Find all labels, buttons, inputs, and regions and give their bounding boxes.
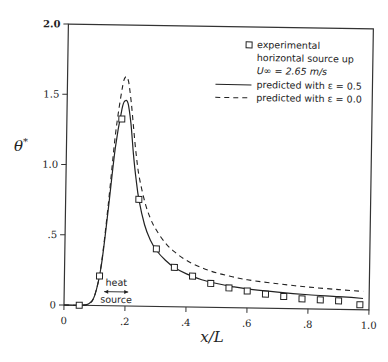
data-point-square-marker [190,273,196,279]
data-point-square-marker [226,285,232,291]
x-tick-label: .8 [303,319,313,330]
data-point-square-marker [262,291,268,297]
data-point-square-marker [136,196,142,202]
source-label: source [100,294,132,305]
data-point-square-marker [244,288,250,294]
heat-source-annotation: heat source [100,277,132,305]
plot-area: 0.2.4.6.81.0 0.51.01.52.0 heat source ex… [38,18,381,331]
legend-dashed-line-icon [215,97,251,98]
y-axis-ticks: 0.51.01.52.0 [38,18,68,310]
legend: experimental horizontal source up U∞ = 2… [215,38,363,104]
x-tick-label: .2 [120,316,130,327]
data-point-square-marker [76,302,82,308]
y-tick-label: 1.5 [43,88,59,99]
legend-exp-line-2: horizontal source up [257,52,354,65]
legend-solid-line-icon [215,84,251,85]
x-tick-label: 0 [60,315,67,326]
legend-dashed-label: predicted with ε = 0.0 [256,92,362,105]
y-tick-label: 2.0 [43,18,61,29]
heat-label: heat [106,277,128,288]
data-point-square-marker [119,116,125,122]
data-point-square-marker [208,280,214,286]
x-tick-label: 1.0 [361,320,377,331]
data-point-square-marker [96,273,102,279]
data-point-square-marker [317,297,323,303]
legend-exp-line-3: U∞ = 2.65 m/s [257,65,328,77]
x-tick-label: .4 [181,317,191,328]
chart: 0.2.4.6.81.0 0.51.01.52.0 heat source ex… [0,0,388,362]
y-tick-label: 0 [50,299,57,310]
legend-square-marker-icon [246,42,252,48]
legend-exp-line-1: experimental [257,39,320,51]
data-point-square-marker [336,298,342,304]
predicted-eps-0.0-line [64,76,366,310]
y-axis-label: θ* [14,136,28,155]
x-tick-label: .6 [242,318,252,329]
y-tick-label: 1.0 [42,159,58,170]
data-point-square-marker [281,293,287,299]
legend-solid-label: predicted with ε = 0.5 [256,79,362,92]
x-axis-label: x/L [200,328,224,346]
data-point-square-marker [299,296,305,302]
data-point-square-marker [153,246,159,252]
y-tick-label: .5 [47,229,57,240]
data-point-square-marker [171,264,177,270]
data-point-square-marker [357,302,363,308]
